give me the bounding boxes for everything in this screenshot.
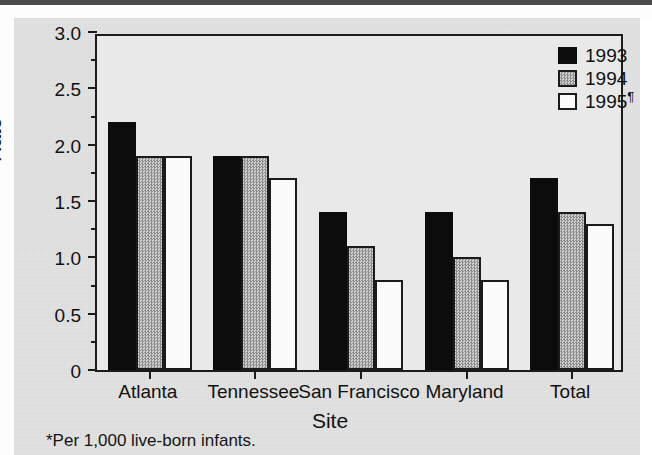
y-tick-major: [88, 144, 97, 146]
legend-swatch-1994: [558, 70, 577, 87]
y-tick-major: [88, 87, 97, 89]
bar-1993-san-francisco: [319, 212, 347, 370]
y-tick-major: [88, 313, 97, 315]
y-tick-label: 0: [21, 362, 81, 381]
x-tick-label: Tennessee: [207, 381, 299, 403]
x-tick: [149, 370, 151, 379]
y-tick-minor: [91, 116, 97, 118]
bar-1995-total: [586, 224, 614, 370]
legend-label-1994: 1994: [585, 68, 627, 89]
y-tick-major: [88, 200, 97, 202]
legend-swatch-1993: [558, 47, 577, 64]
y-tick-label: 3.0: [21, 24, 81, 43]
y-tick-minor: [91, 59, 97, 61]
page-left-margin: [0, 5, 14, 455]
x-tick: [571, 370, 573, 379]
chart-figure: Rate 00.51.01.52.02.53.0 AtlantaTennesse…: [0, 0, 652, 455]
x-tick-label: Maryland: [426, 381, 504, 403]
x-tick: [466, 370, 468, 379]
bar-1993-tennessee: [213, 156, 241, 370]
x-axis-title: Site: [312, 409, 348, 433]
bar-1994-total: [558, 212, 586, 370]
bar-1994-san-francisco: [347, 246, 375, 370]
legend-label-1995: 1995¶: [585, 91, 634, 112]
legend-label-1993: 1993: [585, 45, 627, 66]
y-tick-minor: [91, 228, 97, 230]
y-tick-major: [88, 369, 97, 371]
y-tick-label: 1.0: [21, 249, 81, 268]
legend-footnote-marker: ¶: [627, 89, 634, 104]
y-tick-major: [88, 31, 97, 33]
x-tick: [254, 370, 256, 379]
bar-1993-atlanta: [108, 122, 136, 370]
bar-1995-san-francisco: [375, 280, 403, 370]
bar-1994-maryland: [453, 257, 481, 370]
plot-inner: [97, 36, 621, 370]
x-tick: [360, 370, 362, 379]
y-tick-label: 0.5: [21, 306, 81, 325]
bar-1993-total: [530, 178, 558, 370]
bar-1995-maryland: [481, 280, 509, 370]
y-tick-major: [88, 256, 97, 258]
x-tick-label: Total: [550, 381, 590, 403]
x-tick-label: San Francisco: [298, 381, 419, 403]
bar-1995-atlanta: [164, 156, 192, 370]
y-tick-label: 1.5: [21, 193, 81, 212]
page-top-margin: [0, 5, 652, 18]
plot-area: [95, 34, 623, 372]
x-tick-label: Atlanta: [118, 381, 177, 403]
bar-1994-atlanta: [136, 156, 164, 370]
legend-swatch-1995: [558, 93, 577, 110]
y-axis-title: Rate: [0, 118, 6, 162]
y-tick-label: 2.0: [21, 137, 81, 156]
y-tick-label: 2.5: [21, 80, 81, 99]
y-tick-minor: [91, 172, 97, 174]
y-tick-minor: [91, 285, 97, 287]
bar-1993-maryland: [425, 212, 453, 370]
bar-1995-tennessee: [269, 178, 297, 370]
footnote-text: *Per 1,000 live-born infants.: [46, 431, 256, 451]
bar-1994-tennessee: [241, 156, 269, 370]
y-tick-minor: [91, 341, 97, 343]
